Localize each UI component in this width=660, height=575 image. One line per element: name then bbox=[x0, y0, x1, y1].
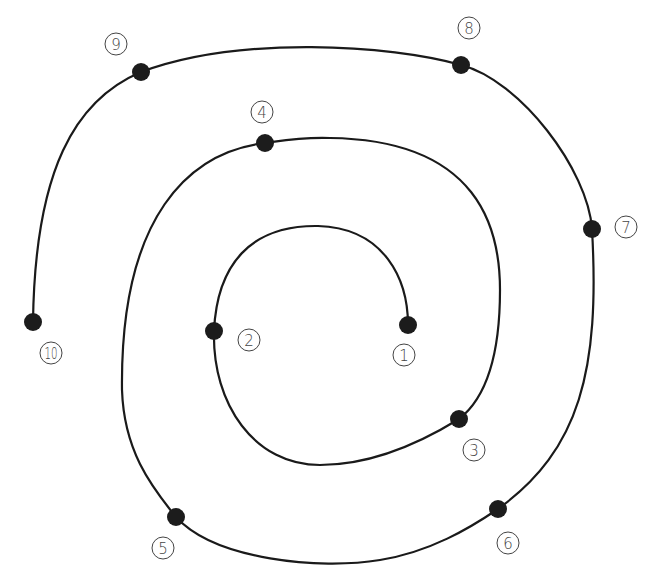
point-label: 5 bbox=[158, 540, 168, 558]
point-label: 8 bbox=[464, 20, 474, 38]
point-label: 2 bbox=[244, 332, 254, 350]
point-dot bbox=[167, 508, 185, 526]
point-label: 9 bbox=[111, 36, 121, 54]
point-label: 3 bbox=[469, 442, 479, 460]
point-label: 7 bbox=[621, 219, 631, 237]
point-8: 8 bbox=[452, 17, 480, 74]
spiral-line bbox=[33, 47, 594, 563]
point-6: 6 bbox=[489, 500, 519, 554]
point-dot bbox=[132, 63, 150, 81]
point-5: 5 bbox=[152, 508, 185, 559]
points-layer: 12345678910 bbox=[24, 17, 637, 559]
point-label: 10 bbox=[45, 345, 58, 363]
point-label: 6 bbox=[503, 535, 513, 553]
point-label: 4 bbox=[257, 104, 267, 122]
spiral-diagram: 12345678910 bbox=[0, 0, 660, 575]
point-dot bbox=[24, 313, 42, 331]
point-dot bbox=[399, 316, 417, 334]
point-1: 1 bbox=[393, 316, 417, 366]
point-9: 9 bbox=[105, 33, 150, 81]
point-dot bbox=[450, 410, 468, 428]
point-10: 10 bbox=[24, 313, 62, 364]
point-dot bbox=[489, 500, 507, 518]
spiral-diagram-svg: 12345678910 bbox=[0, 0, 660, 575]
point-dot bbox=[256, 134, 274, 152]
point-dot bbox=[583, 220, 601, 238]
point-dot bbox=[452, 56, 470, 74]
point-3: 3 bbox=[450, 410, 485, 461]
point-label: 1 bbox=[399, 347, 409, 365]
point-dot bbox=[205, 322, 223, 340]
